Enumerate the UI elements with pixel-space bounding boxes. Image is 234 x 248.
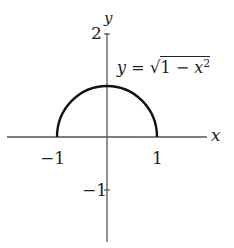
eq-y: y [117,58,126,77]
x-tick-label-neg1: −1 [40,150,65,167]
y-tick-label-2: 2 [91,25,102,42]
y-axis-label: y [104,11,112,26]
eq-one-minus: 1 − [160,58,194,77]
y-tick-label-neg1: −1 [82,182,107,199]
eq-equals: = [131,58,144,77]
eq-x: x [194,58,203,77]
x-tick-label-1: 1 [152,150,163,167]
sqrt-icon: √ [150,57,161,77]
semicircle-plot [0,0,234,248]
x-axis-label: x [211,127,221,144]
eq-exponent: 2 [203,57,210,70]
radicand: 1 − x2 [160,56,210,77]
function-label: y = √1 − x2 [117,58,210,76]
